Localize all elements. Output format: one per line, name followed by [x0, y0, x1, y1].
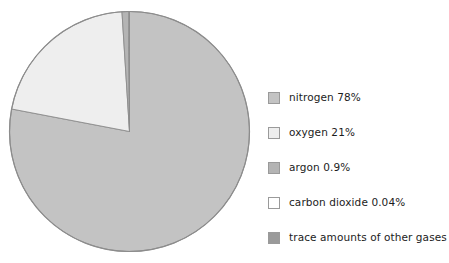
pie-chart-figure: nitrogen 78% oxygen 21% argon 0.9% carbo…: [0, 0, 449, 263]
legend-label-trace-gases: trace amounts of other gases: [289, 231, 447, 244]
legend-item-nitrogen: nitrogen 78%: [268, 86, 446, 121]
pie-slice-group: [10, 11, 250, 251]
legend-item-trace-gases: trace amounts of other gases: [268, 226, 446, 261]
legend-item-argon: argon 0.9%: [268, 156, 446, 191]
legend-swatch-argon: [268, 162, 280, 174]
legend-item-carbon-dioxide: carbon dioxide 0.04%: [268, 191, 446, 226]
legend-swatch-carbon-dioxide: [268, 197, 280, 209]
pie-chart-plot-area: [8, 10, 251, 253]
legend-item-oxygen: oxygen 21%: [268, 121, 446, 156]
chart-legend: nitrogen 78% oxygen 21% argon 0.9% carbo…: [268, 86, 446, 261]
legend-swatch-oxygen: [268, 127, 280, 139]
legend-label-carbon-dioxide: carbon dioxide 0.04%: [289, 196, 405, 209]
pie-chart-svg: [8, 10, 251, 253]
legend-label-argon: argon 0.9%: [289, 161, 350, 174]
legend-label-nitrogen: nitrogen 78%: [289, 91, 361, 104]
legend-label-oxygen: oxygen 21%: [289, 126, 355, 139]
legend-swatch-trace-gases: [268, 232, 280, 244]
legend-swatch-nitrogen: [268, 92, 280, 104]
